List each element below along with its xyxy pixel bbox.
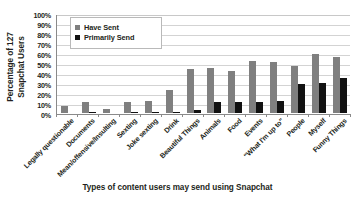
y-axis-title: Percentage of 127 Snapchat Users xyxy=(2,14,28,120)
legend-item-have-sent: Have Sent xyxy=(75,23,157,32)
bar-group xyxy=(246,15,267,113)
legend-label-primarily-send: Primarily Send xyxy=(84,33,134,42)
legend-swatch-icon-primarily-send xyxy=(75,35,80,40)
bar-chart: Percentage of 127 Snapchat Users 100%90%… xyxy=(0,0,355,202)
chart-legend: Have Sent Primarily Send xyxy=(70,17,162,49)
legend-item-primarily-send: Primarily Send xyxy=(75,33,157,42)
x-axis-title: Types of content users may send using Sn… xyxy=(0,183,355,192)
bar-have-sent xyxy=(61,106,68,113)
y-axis-tick-label: 60% xyxy=(37,51,51,60)
y-axis-tick-labels: 100%90%80%70%60%50%40%30%20%10%0% xyxy=(26,14,52,116)
bar-group xyxy=(329,15,350,113)
y-axis-tick-label: 0% xyxy=(41,111,51,120)
y-axis-tick-label: 50% xyxy=(37,61,51,70)
y-axis-title-line-2: Snapchat Users xyxy=(15,32,26,101)
bar-group xyxy=(267,15,288,113)
y-axis-tick-label: 20% xyxy=(37,91,51,100)
y-axis-tick-label: 100% xyxy=(33,11,51,20)
x-axis-category-labels: Legally questionableDocumentsMean/offens… xyxy=(56,117,350,175)
y-axis-tick-label: 90% xyxy=(37,21,51,30)
y-axis-tick-label: 10% xyxy=(37,101,51,110)
bar-group xyxy=(183,15,204,113)
y-axis-tick-label: 30% xyxy=(37,81,51,90)
bar-group xyxy=(308,15,329,113)
legend-swatch-icon-have-sent xyxy=(75,25,80,30)
y-axis-tick-label: 40% xyxy=(37,71,51,80)
y-axis-tick-label: 70% xyxy=(37,41,51,50)
y-axis-title-line-1: Percentage of 127 xyxy=(5,32,16,101)
legend-label-have-sent: Have Sent xyxy=(84,23,119,32)
bar-primarily-send xyxy=(256,102,263,113)
y-axis-tick-label: 80% xyxy=(37,31,51,40)
